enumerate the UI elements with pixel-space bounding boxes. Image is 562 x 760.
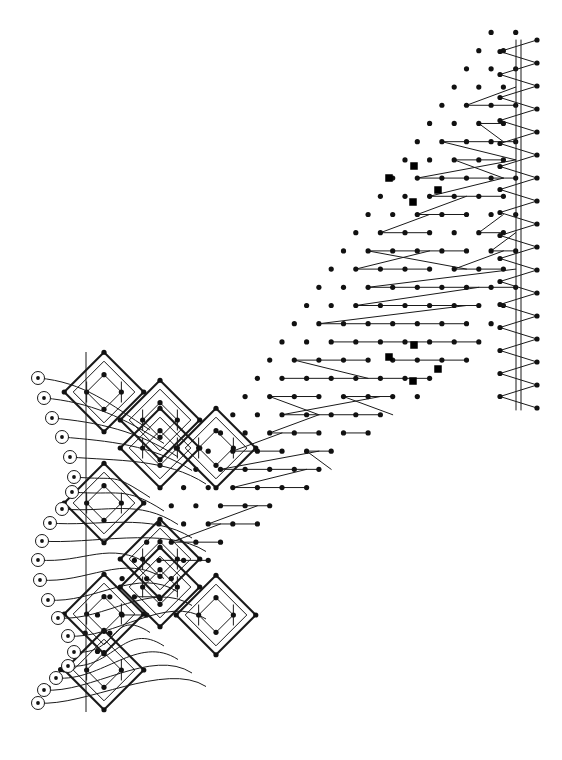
terminal-core-dot [60,507,64,511]
lattice-dot [476,194,481,199]
lattice-dot [230,521,235,526]
lattice-dot [476,267,481,272]
lattice-dot [464,212,469,217]
lattice-dot [255,485,260,490]
lattice-dot [243,467,248,472]
lattice-dot [439,358,444,363]
lattice-dot [243,394,248,399]
cell-vertex-dot [101,685,106,690]
cell-vertex-dot [213,630,218,635]
terminal-core-dot [54,676,58,680]
lattice-dot [427,230,432,235]
lattice-dot [464,175,469,180]
lattice-dot [366,394,371,399]
lattice-dot [439,103,444,108]
square-marker [434,186,442,194]
lattice-dot [464,285,469,290]
lattice-dot [329,267,334,272]
rail-node-dot [534,37,539,42]
lattice-dot [464,139,469,144]
lattice-dot [316,285,321,290]
cell-vertex-dot [174,445,179,450]
lattice-dot [230,485,235,490]
lattice-dot [267,394,272,399]
cell-vertex-dot [213,463,218,468]
lattice-dot [341,358,346,363]
cell-vertex-dot [213,485,218,490]
terminal-core-dot [60,435,64,439]
figure-canvas [0,0,562,760]
terminal-core-dot [36,558,40,562]
lattice-dot [206,558,211,563]
lattice-dot [366,321,371,326]
lattice-dot [464,66,469,71]
cell-vertex-dot [119,611,124,616]
rail-node-dot [497,118,502,123]
lattice-dot [267,358,272,363]
lattice-dot [378,194,383,199]
cell-vertex-dot [119,667,124,672]
lattice-dot [427,303,432,308]
rail-node-dot [497,394,502,399]
lattice-dot [476,303,481,308]
lattice-dot [489,285,494,290]
lattice-dot [292,467,297,472]
lattice-dot [341,285,346,290]
rail-node-dot [534,359,539,364]
lattice-dot [476,339,481,344]
terminal-core-dot [36,376,40,380]
lattice-dot [427,376,432,381]
cell-vertex-dot [157,567,162,572]
cell-vertex-dot [101,650,106,655]
rail-node-dot [497,95,502,100]
lattice-dot [476,121,481,126]
cell-vertex-dot [118,445,123,450]
lattice-dot [378,230,383,235]
lattice-dot [316,394,321,399]
lattice-dot [439,175,444,180]
lattice-dot [279,339,284,344]
lattice-dot [390,394,395,399]
rail-node-dot [497,72,502,77]
lattice-dot [415,212,420,217]
lattice-dot [243,503,248,508]
lattice-dot [218,503,223,508]
lattice-dot [218,467,223,472]
lattice-dot [501,267,506,272]
terminal-core-dot [50,416,54,420]
cell-vertex-dot [157,602,162,607]
rail-node-dot [534,83,539,88]
lattice-dot [501,194,506,199]
lattice-dot [193,503,198,508]
lattice-dot [378,412,383,417]
lattice-dot [329,303,334,308]
lattice-dot [206,521,211,526]
lattice-dot [402,303,407,308]
lattice-dot [439,139,444,144]
cell-vertex-dot [253,445,258,450]
lattice-dot [476,157,481,162]
terminal-core-dot [38,578,42,582]
cell-vertex-dot [84,667,89,672]
cell-vertex-dot [101,483,106,488]
lattice-dot [476,84,481,89]
lattice-dot [316,321,321,326]
cell-vertex-dot [174,612,179,617]
cell-vertex-dot [101,372,106,377]
terminal-core-dot [66,634,70,638]
lattice-dot [206,449,211,454]
rail-node-dot [497,256,502,261]
cell-vertex-dot [231,445,236,450]
cell-vertex-dot [157,485,162,490]
lattice-dot [452,194,457,199]
lattice-dot [489,139,494,144]
lattice-dot [489,321,494,326]
cell-vertex-dot [118,556,123,561]
cell-vertex-dot [157,545,162,550]
cell-vertex-dot [84,500,89,505]
lattice-dot [452,84,457,89]
lattice-dot [452,303,457,308]
lattice-dot [181,558,186,563]
lattice-dot [206,485,211,490]
cell-vertex-dot [213,428,218,433]
